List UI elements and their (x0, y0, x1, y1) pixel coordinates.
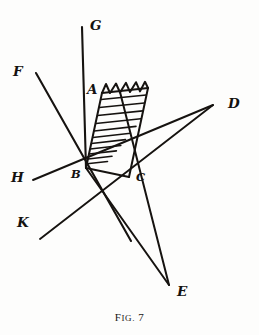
caption-smallcaps: IG. (121, 313, 135, 323)
caption-number: 7 (138, 311, 144, 323)
hatch-line (101, 95, 146, 100)
label-D: D (228, 97, 240, 111)
hatch-line (88, 156, 112, 159)
hatch-line (99, 103, 144, 108)
figure-7: G F A D H B C K E FIG.7 (0, 0, 259, 335)
figure-caption: FIG.7 (0, 311, 259, 323)
label-K: K (17, 216, 29, 230)
hatch-line (96, 119, 141, 124)
sawtooth-edge (102, 82, 148, 93)
label-A: A (87, 83, 97, 97)
segment-B-to-E (86, 168, 169, 285)
label-G: G (90, 19, 101, 33)
segment-C-to-E (120, 92, 169, 285)
label-F: F (13, 65, 22, 79)
hatch-line (87, 162, 107, 164)
label-H: H (11, 171, 24, 185)
geometry-diagram (0, 0, 259, 335)
label-B: B (71, 169, 81, 181)
hatch-line (98, 111, 143, 116)
hatch-line (93, 133, 131, 137)
ray-G-to-B (82, 27, 86, 168)
label-E: E (177, 285, 187, 299)
label-C: C (136, 172, 145, 184)
